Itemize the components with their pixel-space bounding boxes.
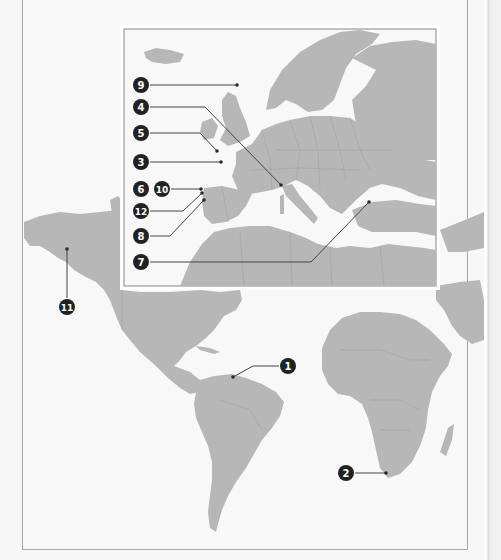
caribbean-islands-land — [196, 346, 220, 354]
location-dot-1 — [231, 375, 235, 379]
corsica-sardinia-land — [280, 194, 284, 214]
middle-east-land — [436, 280, 484, 344]
marker-7[interactable]: 7 — [133, 254, 149, 270]
madagascar-land — [440, 424, 454, 456]
marker-2[interactable]: 2 — [338, 465, 354, 481]
marker-8[interactable]: 8 — [133, 228, 149, 244]
svg-text:1: 1 — [285, 361, 292, 372]
svg-text:7: 7 — [138, 257, 145, 268]
marker-10[interactable]: 10 — [154, 181, 170, 197]
marker-11[interactable]: 11 — [59, 299, 75, 315]
location-dot-7 — [367, 200, 371, 204]
asia-fragment-land — [440, 212, 484, 252]
world-map: 9 4 5 3 6 10 12 8 7 11 1 2 — [0, 0, 501, 560]
leader-1 — [233, 366, 279, 377]
marker-6[interactable]: 6 — [133, 181, 149, 197]
svg-text:10: 10 — [156, 185, 169, 195]
location-dot-9 — [235, 83, 239, 87]
africa-land — [322, 312, 452, 478]
south-america-land — [194, 374, 284, 532]
marker-1[interactable]: 1 — [280, 358, 296, 374]
location-dot-12 — [200, 191, 204, 195]
europe-inset — [120, 25, 440, 290]
location-dot-3 — [219, 160, 223, 164]
svg-text:2: 2 — [343, 468, 350, 479]
location-dot-5 — [215, 149, 219, 153]
location-dot-11 — [65, 247, 69, 251]
location-dot-4 — [279, 183, 283, 187]
svg-text:3: 3 — [138, 157, 145, 168]
location-dot-2 — [384, 471, 388, 475]
svg-text:5: 5 — [138, 128, 145, 139]
map-page: 9 4 5 3 6 10 12 8 7 11 1 2 — [0, 0, 501, 560]
svg-text:11: 11 — [61, 303, 74, 313]
svg-text:8: 8 — [138, 231, 145, 242]
svg-text:9: 9 — [138, 80, 145, 91]
marker-4[interactable]: 4 — [133, 99, 149, 115]
location-dot-8 — [202, 198, 206, 202]
svg-text:4: 4 — [138, 102, 145, 113]
marker-12[interactable]: 12 — [133, 203, 149, 219]
location-dot-10 — [199, 187, 203, 191]
svg-text:6: 6 — [138, 184, 145, 195]
marker-3[interactable]: 3 — [133, 154, 149, 170]
marker-9[interactable]: 9 — [133, 77, 149, 93]
svg-text:12: 12 — [135, 207, 148, 217]
marker-5[interactable]: 5 — [133, 125, 149, 141]
